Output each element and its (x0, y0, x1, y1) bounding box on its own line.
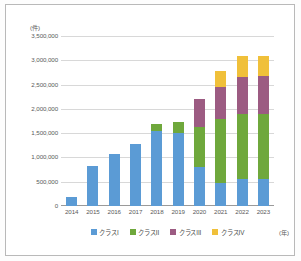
legend-swatch-icon (91, 229, 97, 235)
bar-segment-2023-series4[interactable] (258, 56, 269, 76)
bar-segment-2020-series3[interactable] (194, 99, 205, 128)
plot-area (61, 36, 274, 206)
legend-label: クラスII (138, 228, 159, 237)
y-axis-tick-label: 2,500,000 (2, 82, 58, 88)
legend-label: クラスIV (221, 228, 244, 237)
chart-figure: (件) 3,500,0003,000,0002,500,0002,000,000… (0, 0, 301, 261)
y-axis-unit-label: (件) (30, 23, 40, 32)
bar-2020[interactable] (194, 99, 205, 206)
y-axis-tick-label: 1,500,000 (2, 130, 58, 136)
legend-item-series1[interactable]: クラスI (91, 228, 119, 237)
y-axis-tick-label: 0 (2, 203, 58, 209)
chart-legend: クラスIクラスIIクラスIIIクラスIV (61, 226, 274, 238)
bar-segment-2018-series1[interactable] (151, 131, 162, 206)
legend-item-series3[interactable]: クラスIII (170, 228, 201, 237)
bar-2021[interactable] (215, 71, 226, 206)
legend-label: クラスIII (179, 228, 202, 237)
bar-segment-2020-series2[interactable] (194, 127, 205, 167)
bar-segment-2021-series1[interactable] (215, 183, 226, 206)
legend-item-series4[interactable]: クラスIV (212, 228, 244, 237)
bar-segment-2021-series4[interactable] (215, 71, 226, 87)
legend-swatch-icon (130, 229, 136, 235)
y-axis-tick-label: 3,000,000 (2, 57, 58, 63)
y-axis-tick-label: 1,000,000 (2, 154, 58, 160)
y-axis-tick-label: 2,000,000 (2, 106, 58, 112)
bar-segment-2022-series1[interactable] (237, 179, 248, 206)
legend-item-series2[interactable]: クラスII (130, 228, 160, 237)
x-axis-tick-label-2023: 2023 (251, 208, 275, 215)
x-axis-unit-label: (年) (279, 228, 289, 237)
bar-segment-2017-series1[interactable] (130, 144, 141, 206)
bar-segment-2021-series2[interactable] (215, 119, 226, 183)
bar-segment-2021-series3[interactable] (215, 87, 226, 119)
bar-segment-2022-series3[interactable] (237, 77, 248, 114)
legend-label: クラスI (99, 228, 118, 237)
bar-2015[interactable] (87, 166, 98, 206)
bar-segment-2020-series1[interactable] (194, 167, 205, 206)
legend-swatch-icon (170, 229, 176, 235)
bar-segment-2023-series2[interactable] (258, 114, 269, 179)
y-axis-tick-labels: 3,500,0003,000,0002,500,0002,000,0001,50… (0, 36, 58, 206)
bar-segment-2014-series1[interactable] (66, 197, 77, 206)
bar-2018[interactable] (151, 124, 162, 206)
gridline (61, 36, 274, 37)
bar-segment-2023-series3[interactable] (258, 76, 269, 114)
bar-2017[interactable] (130, 144, 141, 206)
bar-2022[interactable] (237, 56, 248, 206)
bar-segment-2022-series4[interactable] (237, 56, 248, 76)
y-axis-tick-label: 3,500,000 (2, 33, 58, 39)
y-axis-tick-label: 500,000 (2, 179, 58, 185)
bar-2019[interactable] (173, 122, 184, 206)
legend-swatch-icon (212, 229, 218, 235)
bar-segment-2015-series1[interactable] (87, 166, 98, 206)
x-axis-tick-labels: 2014201520162017201820192020202120222023 (61, 208, 274, 220)
bar-2014[interactable] (66, 197, 77, 206)
bar-segment-2019-series2[interactable] (173, 122, 184, 133)
bar-2023[interactable] (258, 56, 269, 206)
bar-segment-2019-series1[interactable] (173, 133, 184, 206)
bar-segment-2018-series2[interactable] (151, 124, 162, 131)
bar-segment-2022-series2[interactable] (237, 114, 248, 179)
bar-segment-2023-series1[interactable] (258, 179, 269, 206)
bar-segment-2016-series1[interactable] (109, 154, 120, 206)
bar-2016[interactable] (109, 154, 120, 206)
